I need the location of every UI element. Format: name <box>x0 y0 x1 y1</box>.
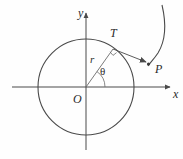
origin-label: O <box>73 93 82 105</box>
involute-curve <box>148 5 165 66</box>
involute-circle-figure: y x O T P r θ <box>0 0 183 159</box>
point-label-P: P <box>155 63 162 75</box>
figure-canvas <box>0 0 183 159</box>
tangent-segment-TP <box>113 49 146 62</box>
radius-label: r <box>90 54 94 65</box>
point-marker-P <box>147 62 150 65</box>
y-axis-label: y <box>78 7 83 19</box>
x-axis-label: x <box>173 88 178 100</box>
point-label-T: T <box>110 27 117 39</box>
angle-label-theta: θ <box>100 66 105 77</box>
